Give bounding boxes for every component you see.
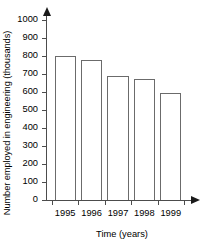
y-tick-label: 300 bbox=[22, 140, 38, 151]
y-axis-line bbox=[46, 14, 47, 200]
x-axis-line bbox=[46, 200, 192, 201]
bar bbox=[55, 56, 76, 200]
x-axis-title: Time (years) bbox=[42, 228, 202, 240]
y-tick-label: 900 bbox=[22, 32, 38, 43]
y-tick: 0 bbox=[42, 200, 47, 201]
x-tick bbox=[131, 200, 132, 205]
x-tick bbox=[52, 200, 53, 205]
y-tick: 500 bbox=[42, 110, 47, 111]
y-tick: 900 bbox=[42, 38, 47, 39]
bar-chart: Number employed in engineering (thousand… bbox=[0, 0, 208, 246]
x-tick bbox=[105, 200, 106, 205]
plot-area: 01002003004005006007008009001000 1995199… bbox=[46, 8, 202, 208]
bar bbox=[81, 60, 102, 200]
x-tick-label: 1996 bbox=[78, 208, 104, 219]
y-tick-label: 0 bbox=[33, 194, 38, 205]
x-tick-label: 1999 bbox=[158, 208, 184, 219]
y-tick-label: 1000 bbox=[17, 14, 38, 25]
bar bbox=[107, 76, 128, 200]
y-tick: 200 bbox=[42, 164, 47, 165]
x-tick bbox=[78, 200, 79, 205]
x-tick-label: 1995 bbox=[52, 208, 78, 219]
y-tick: 400 bbox=[42, 128, 47, 129]
y-tick-label: 500 bbox=[22, 104, 38, 115]
y-tick: 600 bbox=[42, 92, 47, 93]
y-tick: 700 bbox=[42, 74, 47, 75]
y-tick: 1000 bbox=[42, 20, 47, 21]
y-tick-label: 400 bbox=[22, 122, 38, 133]
x-axis-arrow-icon bbox=[191, 196, 200, 204]
x-tick-label: 1997 bbox=[105, 208, 131, 219]
y-tick-label: 100 bbox=[22, 176, 38, 187]
y-tick-label: 200 bbox=[22, 158, 38, 169]
y-axis-arrow-icon bbox=[43, 7, 51, 16]
y-tick: 800 bbox=[42, 56, 47, 57]
y-tick-label: 600 bbox=[22, 86, 38, 97]
bar bbox=[134, 79, 155, 200]
x-tick bbox=[184, 200, 185, 205]
x-tick bbox=[158, 200, 159, 205]
bar bbox=[160, 93, 181, 200]
x-tick-label: 1998 bbox=[131, 208, 157, 219]
y-tick: 300 bbox=[42, 146, 47, 147]
y-tick-label: 700 bbox=[22, 68, 38, 79]
y-tick: 100 bbox=[42, 182, 47, 183]
y-tick-label: 800 bbox=[22, 50, 38, 61]
y-axis-title: Number employed in engineering (thousand… bbox=[0, 0, 14, 246]
